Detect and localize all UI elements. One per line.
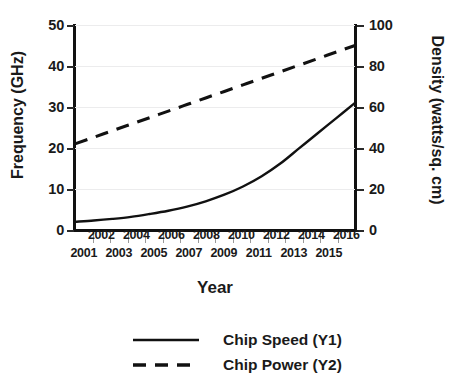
x-axis-tick-label: 2008 <box>193 228 220 242</box>
left-axis-tick-label: 30 <box>24 99 64 115</box>
x-axis-tick-label: 2012 <box>263 228 290 242</box>
right-axis-tick-label: 0 <box>369 222 377 238</box>
x-axis-tick-label: 2003 <box>105 246 132 260</box>
legend-item-label: Chip Power (Y2) <box>223 356 342 374</box>
legend-line-swatch <box>133 359 199 371</box>
left-axis-tick <box>67 66 74 68</box>
x-axis-tick-label: 2010 <box>228 228 255 242</box>
right-axis-tick-label: 20 <box>369 181 385 197</box>
left-axis-tick <box>67 189 74 191</box>
right-axis-tick-label: 100 <box>369 17 393 33</box>
y2-axis-title-label: Density (watts/sq. cm) <box>428 36 446 205</box>
x-axis-tick-label: 2009 <box>210 246 237 260</box>
left-axis-tick <box>67 107 74 109</box>
x-axis-tick-label: 2013 <box>280 246 307 260</box>
x-axis-tick-label: 2002 <box>88 228 115 242</box>
x-axis-tick-label: 2016 <box>333 228 360 242</box>
legend-item-label: Chip Speed (Y1) <box>223 331 342 349</box>
y2-axis-title: Density (watts/sq. cm) <box>424 0 450 240</box>
right-axis-tick <box>357 189 364 191</box>
right-axis-tick <box>357 66 364 68</box>
dual-axis-line-chart: Frequency (GHz) Density (watts/sq. cm) 0… <box>0 0 462 382</box>
right-axis-tick <box>357 148 364 150</box>
x-axis-tick-label: 2014 <box>298 228 325 242</box>
x-axis-tick-label: 2004 <box>123 228 150 242</box>
x-axis-tick-label: 2007 <box>175 246 202 260</box>
right-axis-tick-label: 80 <box>369 58 385 74</box>
left-axis-tick-label: 0 <box>24 222 64 238</box>
x-axis-tick-label: 2005 <box>140 246 167 260</box>
series-line-chip-speed <box>75 103 355 222</box>
left-axis-tick-label: 20 <box>24 140 64 156</box>
left-axis-tick <box>67 25 74 27</box>
x-axis-tick-label: 2001 <box>70 246 97 260</box>
right-axis-tick-label: 60 <box>369 99 385 115</box>
series-line-chip-power <box>75 46 355 144</box>
series-plot <box>75 25 355 230</box>
x-axis-title: Year <box>75 278 355 298</box>
left-axis-tick <box>67 148 74 150</box>
x-axis-labels-odd-years: 20012003200520072009201120132015 <box>75 246 355 264</box>
plot-area: 01020304050020406080100 <box>75 25 355 230</box>
left-axis-tick-label: 10 <box>24 181 64 197</box>
left-axis-tick <box>67 230 74 232</box>
x-axis-labels-even-years: 20022004200620082010201220142016 <box>75 228 355 246</box>
legend-line-swatch <box>133 334 199 346</box>
legend-item[interactable]: Chip Power (Y2) <box>133 352 393 377</box>
x-axis-tick-label: 2006 <box>158 228 185 242</box>
x-axis-tick-label: 2011 <box>246 246 272 260</box>
right-axis-tick <box>357 107 364 109</box>
legend-item[interactable]: Chip Speed (Y1) <box>133 327 393 352</box>
right-axis-tick <box>357 25 364 27</box>
left-axis-tick-label: 40 <box>24 58 64 74</box>
left-axis-tick-label: 50 <box>24 17 64 33</box>
right-axis-tick-label: 40 <box>369 140 385 156</box>
chart-legend: Chip Speed (Y1)Chip Power (Y2) <box>133 327 393 377</box>
x-axis-tick-label: 2015 <box>315 246 342 260</box>
